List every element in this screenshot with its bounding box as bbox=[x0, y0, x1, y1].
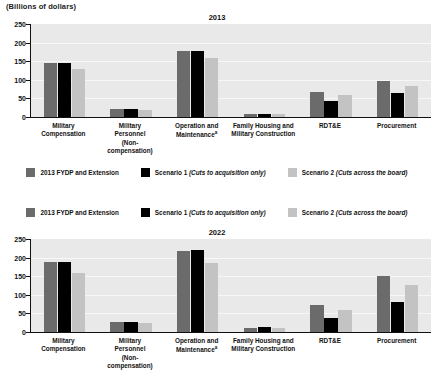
legend-swatch-fydp bbox=[26, 208, 35, 217]
bar bbox=[110, 322, 124, 332]
bar bbox=[72, 69, 86, 117]
bar bbox=[177, 51, 191, 117]
bar bbox=[405, 86, 419, 117]
y-axis-2022: 050100150200250 bbox=[0, 239, 30, 332]
bar bbox=[272, 328, 286, 332]
bar bbox=[324, 318, 338, 332]
legend-top: 2013 FYDP and ExtensionScenario 1 (Cuts … bbox=[0, 168, 434, 177]
legend-item-scenario1[interactable]: Scenario 1 (Cuts to acquisition only) bbox=[141, 208, 266, 217]
bar bbox=[377, 276, 391, 332]
chart-title-2022: 2022 bbox=[0, 228, 434, 237]
bar bbox=[191, 250, 205, 332]
legend-bottom: 2013 FYDP and ExtensionScenario 1 (Cuts … bbox=[0, 208, 434, 217]
figure-root: (Billions of dollars) 2013 0501001502002… bbox=[0, 0, 434, 382]
y-tick-label: 200 bbox=[14, 254, 26, 261]
legend-item-scenario2[interactable]: Scenario 2 (Cuts across the board) bbox=[288, 168, 408, 177]
legend-label-scenario1: Scenario 1 (Cuts to acquisition only) bbox=[155, 209, 266, 216]
bar-group bbox=[31, 239, 98, 332]
bar bbox=[258, 114, 272, 117]
legend-swatch-scenario1 bbox=[141, 168, 150, 177]
bar bbox=[258, 327, 272, 332]
bar-group bbox=[364, 239, 431, 332]
bar-group bbox=[98, 24, 165, 117]
units-label: (Billions of dollars) bbox=[6, 2, 76, 11]
y-tick-label: 100 bbox=[14, 76, 26, 83]
bars-layer-2022 bbox=[31, 239, 431, 332]
chart-title-2013: 2013 bbox=[0, 13, 434, 22]
bar-group bbox=[98, 239, 165, 332]
legend-item-fydp[interactable]: 2013 FYDP and Extension bbox=[26, 208, 118, 217]
bar-group bbox=[31, 24, 98, 117]
y-tick-label: 200 bbox=[14, 39, 26, 46]
bar bbox=[44, 63, 58, 117]
legend-item-scenario1[interactable]: Scenario 1 (Cuts to acquisition only) bbox=[141, 168, 266, 177]
bar-group bbox=[298, 239, 365, 332]
footnote-marker: a bbox=[215, 345, 218, 350]
legend-label-fydp: 2013 FYDP and Extension bbox=[40, 169, 118, 176]
legend-swatch-scenario2 bbox=[288, 168, 297, 177]
bar bbox=[110, 109, 124, 117]
bar bbox=[377, 81, 391, 117]
y-tick-label: 250 bbox=[14, 236, 26, 243]
bar bbox=[244, 328, 258, 332]
bar bbox=[391, 93, 405, 117]
bar bbox=[205, 263, 219, 332]
y-tick-label: 250 bbox=[14, 21, 26, 28]
y-tick-label: 50 bbox=[18, 310, 26, 317]
bar bbox=[124, 322, 138, 332]
bar bbox=[310, 305, 324, 332]
bar bbox=[58, 262, 72, 332]
category-label: Procurement bbox=[355, 122, 434, 130]
bar-group bbox=[364, 24, 431, 117]
bar bbox=[310, 92, 324, 117]
bar bbox=[244, 114, 258, 117]
bar bbox=[338, 310, 352, 332]
bar bbox=[138, 323, 152, 332]
bar bbox=[324, 101, 338, 117]
category-label: Procurement bbox=[355, 337, 434, 345]
bar bbox=[138, 110, 152, 117]
y-tick-label: 150 bbox=[14, 273, 26, 280]
bar-group bbox=[298, 24, 365, 117]
bar bbox=[124, 109, 138, 117]
plot-area-2022 bbox=[30, 239, 431, 333]
legend-swatch-scenario2 bbox=[288, 208, 297, 217]
legend-label-scenario2: Scenario 2 (Cuts across the board) bbox=[302, 169, 408, 176]
bar bbox=[405, 285, 419, 332]
y-axis-2013: 050100150200250 bbox=[0, 24, 30, 117]
plot-area-2013 bbox=[30, 24, 431, 118]
bar-group bbox=[231, 239, 298, 332]
footnote-marker: a bbox=[215, 130, 218, 135]
legend-label-scenario2: Scenario 2 (Cuts across the board) bbox=[302, 209, 408, 216]
legend-swatch-fydp bbox=[26, 168, 35, 177]
bar-group bbox=[231, 24, 298, 117]
bar bbox=[72, 273, 86, 332]
bar-group bbox=[164, 239, 231, 332]
bar-group bbox=[164, 24, 231, 117]
legend-item-scenario2[interactable]: Scenario 2 (Cuts across the board) bbox=[288, 208, 408, 217]
legend-label-fydp: 2013 FYDP and Extension bbox=[40, 209, 118, 216]
bar bbox=[391, 302, 405, 332]
bar bbox=[58, 63, 72, 117]
legend-label-scenario1: Scenario 1 (Cuts to acquisition only) bbox=[155, 169, 266, 176]
bar bbox=[44, 262, 58, 332]
bars-layer-2013 bbox=[31, 24, 431, 117]
y-tick-label: 150 bbox=[14, 58, 26, 65]
bar bbox=[191, 51, 205, 117]
bar bbox=[338, 95, 352, 117]
bar bbox=[272, 114, 286, 117]
bar bbox=[205, 58, 219, 117]
legend-swatch-scenario1 bbox=[141, 208, 150, 217]
bar bbox=[177, 251, 191, 332]
legend-item-fydp[interactable]: 2013 FYDP and Extension bbox=[26, 168, 118, 177]
y-tick-label: 50 bbox=[18, 95, 26, 102]
y-tick-label: 100 bbox=[14, 291, 26, 298]
